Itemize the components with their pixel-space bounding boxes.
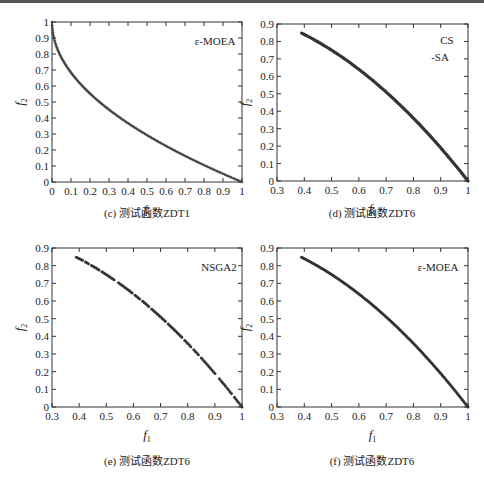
- y-tick-label: 0.9: [35, 32, 49, 44]
- x-tick-label: 1: [465, 410, 471, 422]
- y-tick-label: 0.1: [260, 158, 274, 170]
- x-tick-label: 0.5: [325, 184, 339, 196]
- x-tick-label: 0.9: [434, 410, 448, 422]
- x-tick-label: 0.8: [181, 410, 195, 422]
- y-tick-label: 0.2: [260, 140, 274, 152]
- x-tick-label: 0.7: [379, 410, 393, 422]
- legend-label: CS: [440, 34, 453, 46]
- y-tick-label: 0.1: [260, 383, 274, 395]
- x-tick-label: 1: [465, 184, 471, 196]
- y-tick-label: 0.8: [35, 48, 49, 60]
- x-tick-label: 0.6: [352, 184, 366, 196]
- y-tick-label: 0.5: [260, 313, 274, 325]
- y-tick-label: 0.4: [260, 105, 274, 117]
- y-tick-label: 0.1: [35, 160, 49, 172]
- y-tick-label: 0: [44, 401, 50, 413]
- y-tick-label: 0.5: [260, 88, 274, 100]
- legend-label: ε-MOEA: [195, 35, 236, 47]
- x-tick-label: 0.7: [178, 185, 192, 197]
- y-axis-label: f2: [237, 324, 254, 332]
- x-tick-label: 0.3: [102, 185, 116, 197]
- y-tick-label: 0.4: [260, 330, 274, 342]
- x-tick-label: 0: [49, 185, 55, 197]
- x-tick-label: 0.7: [154, 410, 168, 422]
- y-tick-label: 0.6: [35, 80, 49, 92]
- x-tick-label: 0.8: [407, 184, 421, 196]
- x-tick-label: 0.6: [159, 185, 173, 197]
- y-tick-label: 0.7: [260, 53, 274, 65]
- y-tick-label: 0.2: [35, 366, 49, 378]
- x-tick-label: 0.9: [208, 410, 222, 422]
- y-tick-label: 0: [269, 401, 275, 413]
- x-tick-label: 0.5: [325, 410, 339, 422]
- x-tick-label: 0.4: [297, 410, 311, 422]
- x-axis-label: f1: [369, 427, 377, 444]
- y-tick-label: 0.9: [35, 242, 49, 254]
- x-tick-label: 0.4: [72, 410, 86, 422]
- chart-e: 0.30.40.50.60.70.80.9100.10.20.30.40.50.…: [12, 242, 245, 468]
- x-tick-label: 0.5: [140, 185, 154, 197]
- legend-label-2: -SA: [431, 51, 449, 63]
- y-tick-label: 0.2: [35, 144, 49, 156]
- y-tick-label: 1: [44, 16, 50, 28]
- data-series: [75, 256, 244, 409]
- y-tick-label: 0.6: [35, 295, 49, 307]
- y-tick-label: 0.3: [260, 123, 274, 135]
- y-tick-label: 0.8: [260, 35, 274, 47]
- legend-label: NSGA2: [201, 261, 236, 273]
- y-tick-label: 0.2: [260, 366, 274, 378]
- x-tick-label: 1: [239, 410, 245, 422]
- chart-caption: (f) 测试函数ZDT6: [330, 455, 415, 468]
- x-tick-label: 0.4: [297, 184, 311, 196]
- chart-caption: (d) 测试函数ZDT6: [329, 207, 416, 220]
- y-tick-label: 0.9: [260, 18, 274, 30]
- y-tick-label: 0.4: [35, 112, 49, 124]
- x-tick-label: 0.9: [216, 185, 230, 197]
- y-tick-label: 0.9: [260, 242, 274, 254]
- plot-frame: [277, 24, 468, 181]
- y-tick-label: 0.3: [260, 348, 274, 360]
- y-tick-label: 0.6: [260, 70, 274, 82]
- x-tick-label: 0.1: [64, 185, 78, 197]
- y-tick-label: 0.1: [35, 383, 49, 395]
- x-tick-label: 0.6: [352, 410, 366, 422]
- x-tick-label: 0.4: [121, 185, 135, 197]
- y-tick-label: 0.8: [260, 260, 274, 272]
- x-tick-label: 0.5: [99, 410, 113, 422]
- y-tick-label: 0: [269, 175, 275, 187]
- data-series: [300, 256, 469, 409]
- y-tick-label: 0.3: [35, 348, 49, 360]
- y-tick-label: 0.5: [35, 96, 49, 108]
- x-axis-label: f1: [143, 427, 151, 444]
- y-tick-label: 0.7: [260, 277, 274, 289]
- x-tick-label: 0.9: [434, 184, 448, 196]
- x-tick-label: 0.6: [127, 410, 141, 422]
- y-tick-label: 0.3: [35, 128, 49, 140]
- x-tick-label: 0.7: [379, 184, 393, 196]
- legend-label: ε-MOEA: [418, 261, 459, 273]
- y-tick-label: 0.5: [35, 313, 49, 325]
- y-tick-label: 0.6: [260, 295, 274, 307]
- x-tick-label: 0.8: [407, 410, 421, 422]
- x-tick-label: 1: [239, 185, 245, 197]
- chart-c: 00.10.20.30.40.50.60.70.80.9100.10.20.30…: [12, 16, 245, 220]
- chart-caption: (e) 测试函数ZDT6: [104, 455, 190, 468]
- chart-f: 0.30.40.50.60.70.80.9100.10.20.30.40.50.…: [237, 242, 471, 468]
- chart-caption: (c) 测试函数ZDT1: [104, 207, 190, 220]
- x-tick-label: 0.8: [197, 185, 211, 197]
- y-tick-label: 0.7: [35, 64, 49, 76]
- y-axis-label: f2: [12, 98, 29, 106]
- figure-panel: 00.10.20.30.40.50.60.70.80.9100.10.20.30…: [0, 0, 484, 482]
- x-tick-label: 0.2: [83, 185, 97, 197]
- y-tick-label: 0.8: [35, 260, 49, 272]
- y-axis-label: f2: [12, 324, 29, 332]
- y-tick-label: 0.4: [35, 330, 49, 342]
- y-tick-label: 0.7: [35, 277, 49, 289]
- chart-d: 0.30.40.50.60.70.80.9100.10.20.30.40.50.…: [237, 18, 471, 220]
- y-tick-label: 0: [44, 176, 50, 188]
